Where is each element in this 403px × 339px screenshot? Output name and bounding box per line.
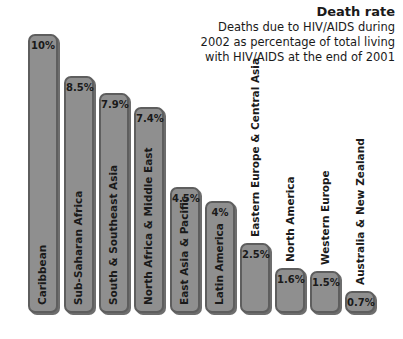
bar-category-label: East Asia & Pacific <box>178 196 190 305</box>
chart-subtitle: Deaths due to HIV/AIDS during 2002 as pe… <box>195 20 395 65</box>
bar-value-label: 2.5% <box>242 249 268 260</box>
bar: 1.5% <box>310 271 340 313</box>
bar-category-label: Western Europe <box>319 170 331 265</box>
bar-category-label: Sub-Saharan Africa <box>72 191 84 305</box>
bar-category-label: South & Southeast Asia <box>107 165 119 305</box>
bar-value-label: 7.9% <box>101 99 127 110</box>
bar-value-label: 7.4% <box>136 113 162 124</box>
bar-category-label: Caribbean <box>36 245 48 305</box>
bar: 0.7% <box>345 291 375 313</box>
bar-category-label: North America <box>284 176 296 262</box>
bar: 1.6% <box>275 268 305 313</box>
bar-value-label: 4% <box>207 207 233 218</box>
bar-category-label: Latin America <box>213 223 225 305</box>
bar: 2.5% <box>240 243 270 313</box>
chart-title: Death rate <box>195 4 395 20</box>
chart-title-block: Death rate Deaths due to HIV/AIDS during… <box>195 4 395 65</box>
bar-category-label: North Africa & Middle East <box>142 147 154 305</box>
bar-category-label: Australia & New Zealand <box>354 138 366 285</box>
bar-value-label: 8.5% <box>66 82 92 93</box>
bar-category-label: Eastern Europe & Central Asia <box>249 58 261 237</box>
bar-value-label: 1.5% <box>312 277 338 288</box>
bar-value-label: 10% <box>30 40 56 51</box>
bar-value-label: 1.6% <box>277 274 303 285</box>
bar-value-label: 0.7% <box>347 297 373 308</box>
